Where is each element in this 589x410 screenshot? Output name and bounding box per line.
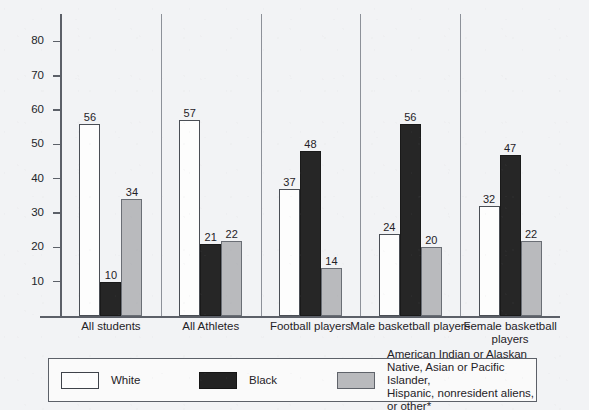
bars-row: 374814 bbox=[279, 14, 342, 316]
bar-group: 561034 bbox=[61, 14, 161, 316]
group-divider-line bbox=[360, 14, 361, 316]
bar-value-label: 22 bbox=[525, 229, 537, 240]
y-axis-tick-label: 10 bbox=[14, 276, 44, 288]
bar-value-label: 37 bbox=[283, 177, 295, 188]
group-divider-line bbox=[261, 14, 262, 316]
bar: 48 bbox=[300, 151, 321, 316]
y-axis-tick-mark bbox=[53, 178, 60, 180]
y-axis-tick-mark bbox=[53, 281, 60, 283]
legend-label: Black bbox=[249, 374, 277, 387]
y-axis-tick-label: 40 bbox=[14, 173, 44, 185]
y-axis-tick-label: 70 bbox=[14, 70, 44, 82]
bar-value-label: 20 bbox=[425, 235, 437, 246]
y-axis-tick-mark bbox=[53, 212, 60, 214]
bars-row: 245620 bbox=[379, 14, 442, 316]
bar: 20 bbox=[421, 247, 442, 316]
bar: 57 bbox=[179, 120, 200, 316]
bar: 56 bbox=[79, 124, 100, 316]
y-axis-tick-mark bbox=[53, 75, 60, 77]
bar-value-label: 48 bbox=[304, 139, 316, 150]
bar-group: 245620 bbox=[360, 14, 460, 316]
y-axis-tick-mark bbox=[53, 247, 60, 249]
y-axis-tick-label: 20 bbox=[14, 241, 44, 253]
legend-label: White bbox=[111, 374, 140, 387]
bar: 21 bbox=[200, 244, 221, 316]
y-axis-tick-label: 30 bbox=[14, 207, 44, 219]
bars-row: 572122 bbox=[179, 14, 242, 316]
y-axis-tick-mark bbox=[53, 109, 60, 111]
bar-value-label: 56 bbox=[404, 112, 416, 123]
bar-value-label: 24 bbox=[383, 222, 395, 233]
legend-swatch-black bbox=[199, 372, 237, 389]
bars-row: 561034 bbox=[79, 14, 142, 316]
bar-group: 324722 bbox=[460, 14, 560, 316]
bar-value-label: 34 bbox=[126, 187, 138, 198]
y-axis-tick-label: 60 bbox=[14, 104, 44, 116]
bar-value-label: 10 bbox=[105, 270, 117, 281]
legend-swatch-gray bbox=[337, 372, 375, 389]
bar-value-label: 56 bbox=[84, 112, 96, 123]
bar: 22 bbox=[221, 241, 242, 317]
x-axis-line bbox=[40, 316, 560, 318]
bar: 32 bbox=[479, 206, 500, 316]
bar-value-label: 47 bbox=[504, 143, 516, 154]
bar-value-label: 21 bbox=[205, 232, 217, 243]
bar-value-label: 22 bbox=[226, 229, 238, 240]
y-axis-tick-mark bbox=[53, 41, 60, 43]
bar: 24 bbox=[379, 234, 400, 316]
bar-group: 572122 bbox=[161, 14, 261, 316]
bar-value-label: 14 bbox=[325, 256, 337, 267]
legend-swatch-white bbox=[61, 372, 99, 389]
bars-row: 324722 bbox=[479, 14, 542, 316]
legend-item: Black bbox=[199, 372, 277, 389]
group-divider-line bbox=[460, 14, 461, 316]
bar: 56 bbox=[400, 124, 421, 316]
y-axis-tick-label: 80 bbox=[14, 35, 44, 47]
y-axis-tick-mark bbox=[53, 144, 60, 146]
legend-label: American Indian or Alaskan Native, Asian… bbox=[387, 348, 536, 410]
bar: 10 bbox=[100, 282, 121, 316]
bar: 14 bbox=[321, 268, 342, 316]
legend-item: White bbox=[61, 372, 140, 389]
group-divider-line bbox=[161, 14, 162, 316]
bar: 22 bbox=[521, 241, 542, 317]
chart-legend: WhiteBlackAmerican Indian or Alaskan Nat… bbox=[48, 358, 537, 402]
bar: 37 bbox=[279, 189, 300, 316]
bar: 47 bbox=[500, 155, 521, 316]
bar-value-label: 32 bbox=[483, 194, 495, 205]
x-axis-group-label: Female basketball players bbox=[448, 320, 572, 346]
legend-item: American Indian or Alaskan Native, Asian… bbox=[337, 348, 536, 410]
bar: 34 bbox=[121, 199, 142, 316]
grouped-bar-chart: 1020304050607080 561034All students57212… bbox=[0, 0, 589, 410]
bar-value-label: 57 bbox=[184, 108, 196, 119]
bar-group: 374814 bbox=[261, 14, 361, 316]
y-axis-tick-label: 50 bbox=[14, 138, 44, 150]
